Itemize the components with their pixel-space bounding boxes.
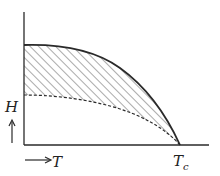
- tc-subscript: c: [183, 161, 189, 172]
- critical-temperature-label: Tc: [173, 152, 189, 172]
- x-arrow-icon: [25, 157, 51, 163]
- tc-main: T: [173, 152, 183, 170]
- y-axis-label: H: [5, 98, 18, 116]
- hatched-region: [24, 45, 180, 145]
- diagram-canvas: [0, 0, 220, 176]
- y-arrow-icon: [9, 120, 15, 143]
- x-axis-label: T: [52, 153, 62, 171]
